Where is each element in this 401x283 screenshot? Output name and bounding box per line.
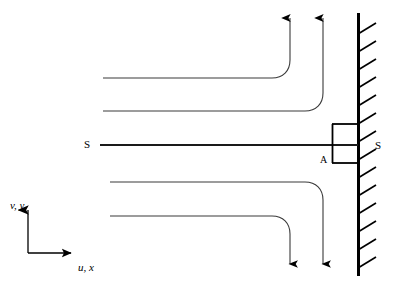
axis-indicator [28, 210, 71, 253]
streamline-group [103, 18, 323, 264]
label-stagnation-point-a: A [320, 155, 327, 165]
streamline-lower-outer [110, 216, 290, 264]
label-s-left: S [84, 139, 90, 150]
wall-hatch-group [358, 23, 376, 268]
label-s-right: S [375, 140, 381, 151]
figure-canvas [0, 0, 401, 283]
stagnation-flow-figure: S S A v, y u, x [0, 0, 401, 283]
streamline-lower-inner [110, 182, 323, 264]
stagnation-box [332, 124, 359, 163]
label-axis-horizontal: u, x [78, 262, 94, 273]
hatched-wall [358, 13, 376, 276]
streamline-upper-outer [103, 18, 290, 78]
label-axis-vertical: v, y [10, 200, 24, 211]
